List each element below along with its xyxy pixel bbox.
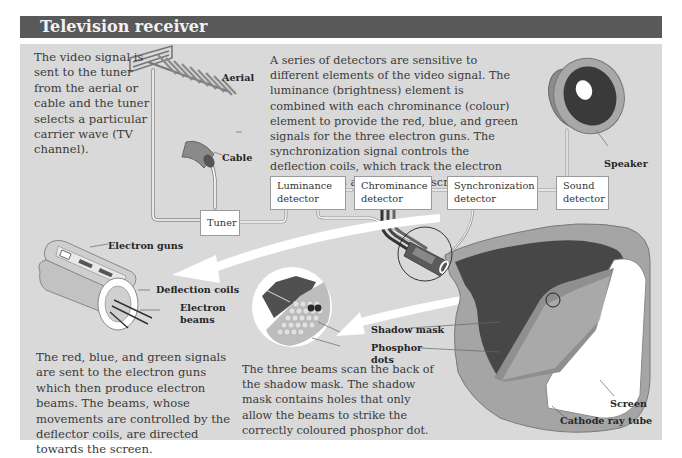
- label-cable: Cable: [222, 152, 252, 164]
- label-aerial: Aerial: [222, 72, 254, 84]
- shadow-mask-closeup: [252, 267, 340, 347]
- text-detectors-description: A series of detectors are sensitive to d…: [270, 53, 518, 190]
- shadow-mask-text: The three beams scan the back of the sha…: [242, 363, 434, 437]
- arrow-head-guns: [172, 255, 220, 283]
- synchronization-label-line1: Synchronization: [454, 180, 531, 193]
- label-cathode-ray-tube: Cathode ray tube: [560, 415, 652, 427]
- label-electron-beams-line2: beams: [180, 314, 215, 326]
- luminance-detector-box: Luminance detector: [270, 176, 346, 210]
- label-phosphor-dots-line1: Phosphor: [371, 342, 422, 354]
- chrominance-label-line2: detector: [361, 193, 425, 206]
- sound-detector-box: Sound detector: [556, 176, 609, 210]
- luminance-label-line1: Luminance: [277, 180, 339, 193]
- speaker-illustration: [541, 48, 635, 146]
- label-deflection-coils: Deflection coils: [156, 284, 239, 296]
- electron-gun-closeup: [39, 240, 160, 330]
- arrow-head-mask: [336, 312, 365, 336]
- luminance-label-line2: detector: [277, 193, 339, 206]
- text-tuner-description: The video signal is sent to the tuner fr…: [34, 50, 152, 158]
- label-phosphor-dots-line2: dots: [371, 354, 394, 366]
- label-speaker: Speaker: [604, 158, 648, 170]
- text-electron-guns-description: The red, blue, and green signals are sen…: [36, 350, 242, 458]
- label-screen: Screen: [610, 398, 647, 410]
- text-shadow-mask-description: The three beams scan the back of the sha…: [242, 362, 442, 438]
- label-electron-guns: Electron guns: [108, 240, 183, 252]
- chrominance-label-line1: Chrominance: [361, 180, 425, 193]
- tuner-box: Tuner: [200, 210, 240, 236]
- label-shadow-mask: Shadow mask: [371, 324, 444, 336]
- synchronization-label-line2: detector: [454, 193, 531, 206]
- label-electron-beams-line1: Electron: [180, 302, 226, 314]
- cable-illustration: [182, 141, 222, 169]
- sound-label-line2: detector: [563, 193, 602, 206]
- sound-label-line1: Sound: [563, 180, 602, 193]
- synchronization-detector-box: Synchronization detector: [447, 176, 538, 210]
- chrominance-detector-box: Chrominance detector: [354, 176, 432, 210]
- tuner-label: Tuner: [207, 217, 237, 228]
